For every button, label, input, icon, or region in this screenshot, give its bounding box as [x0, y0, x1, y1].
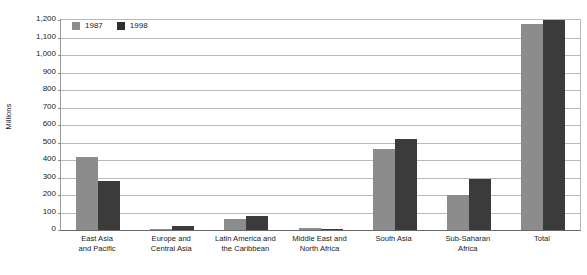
y-axis-tick-label: 700 [43, 103, 56, 111]
bar-1987-5 [447, 195, 469, 230]
bar-1998-0 [98, 181, 120, 230]
x-axis-label-line: North Africa [282, 244, 356, 254]
legend-item-1987[interactable]: 1987 [72, 22, 103, 30]
y-axis-tick-label: 200 [43, 190, 56, 198]
bar-1987-2 [224, 219, 246, 230]
bar-1987-4 [373, 149, 395, 230]
x-axis-category-label: Middle East andNorth Africa [282, 234, 356, 255]
y-axis-tick-label: 1,200 [36, 15, 56, 23]
bar-group [150, 20, 194, 230]
y-axis-tick-label: 400 [43, 155, 56, 163]
x-axis-category-label: Latin America andthe Caribbean [208, 234, 282, 255]
bars-layer [61, 20, 580, 230]
x-axis-category-label: East Asiaand Pacific [60, 234, 134, 255]
bar-group [224, 20, 268, 230]
y-axis-tick-label: 100 [43, 208, 56, 216]
bar-group [447, 20, 491, 230]
bar-chart: Millions 1,2001,1001,0009008007006005004… [0, 0, 587, 275]
x-axis-label-line: Sub-Saharan [431, 234, 505, 244]
y-axis-tick-label: 300 [43, 173, 56, 181]
x-axis-label-line: Central Asia [134, 244, 208, 254]
x-axis-label-line: East Asia [60, 234, 134, 244]
x-axis-label-line: Latin America and [208, 234, 282, 244]
y-axis-tick-label: 800 [43, 85, 56, 93]
x-axis-label-line: Middle East and [282, 234, 356, 244]
x-axis-category-label: Europe andCentral Asia [134, 234, 208, 255]
x-axis-label-line: Africa [431, 244, 505, 254]
plot-area [60, 19, 581, 231]
x-axis-category-label: Sub-SaharanAfrica [431, 234, 505, 255]
bar-1998-2 [246, 216, 268, 230]
x-axis-label-line: and Pacific [60, 244, 134, 254]
y-axis-tick-label: 900 [43, 68, 56, 76]
legend-label: 1998 [130, 22, 148, 30]
y-axis-title-label: Millions [5, 103, 14, 129]
legend-swatch-icon [117, 22, 125, 30]
bar-group [373, 20, 417, 230]
y-axis-tick-label: 1,100 [36, 33, 56, 41]
y-axis-tick-label: 500 [43, 138, 56, 146]
bar-group [76, 20, 120, 230]
bar-group [299, 20, 343, 230]
y-axis-tick-label: 1,000 [36, 50, 56, 58]
bar-1998-5 [469, 179, 491, 230]
x-axis-label-line: the Caribbean [208, 244, 282, 254]
x-axis-label-line: South Asia [357, 234, 431, 244]
y-axis-tick-labels: 1,2001,1001,0009008007006005004003002001… [18, 0, 60, 240]
bar-1998-4 [395, 139, 417, 230]
legend-item-1998[interactable]: 1998 [117, 22, 148, 30]
x-axis-category-label: South Asia [357, 234, 431, 244]
bar-1987-1 [150, 229, 172, 230]
bar-1998-3 [321, 229, 343, 230]
bar-1998-6 [543, 20, 565, 230]
y-axis-tick-label: 600 [43, 120, 56, 128]
bar-group [521, 20, 565, 230]
x-axis-category-label: Total [505, 234, 579, 244]
legend-swatch-icon [72, 22, 80, 30]
chart-legend: 19871998 [66, 19, 154, 33]
x-axis-label-line: Europe and [134, 234, 208, 244]
x-axis-category-labels: East Asiaand PacificEurope andCentral As… [60, 234, 579, 274]
bar-1987-3 [299, 228, 321, 230]
x-axis-label-line: Total [505, 234, 579, 244]
y-axis-title: Millions [0, 0, 18, 232]
bar-1987-6 [521, 24, 543, 230]
bar-1987-0 [76, 157, 98, 230]
legend-label: 1987 [85, 22, 103, 30]
bar-1998-1 [172, 226, 194, 230]
y-axis-tick-mark [58, 230, 61, 231]
y-axis-tick-label: 0 [52, 225, 56, 233]
